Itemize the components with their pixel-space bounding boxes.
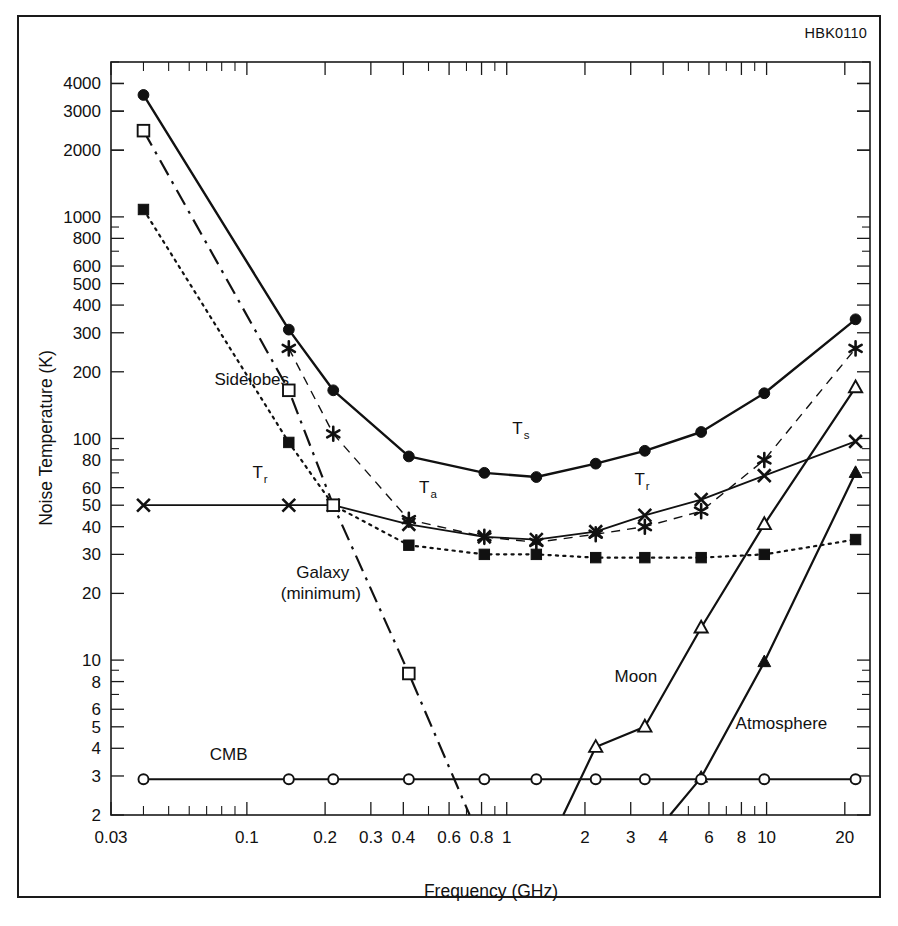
marker-filled-square <box>531 549 541 559</box>
y-tick-label: 80 <box>82 451 101 470</box>
series-galaxy-minimum <box>138 125 470 815</box>
series-ts <box>138 90 861 483</box>
annotation-label: Ts <box>512 419 529 441</box>
y-axis-tick-labels: 4000300020001000800600500400300200100806… <box>63 74 101 825</box>
marker-x-cross <box>849 435 862 448</box>
x-tick-label: 0.03 <box>94 828 127 847</box>
marker-filled-square <box>404 540 414 550</box>
plot-frame <box>111 62 870 815</box>
marker-open-circle <box>138 774 148 784</box>
marker-open-circle <box>591 774 601 784</box>
marker-filled-square <box>591 552 601 562</box>
y-tick-label: 40 <box>82 518 101 537</box>
annotation-subscript: a <box>430 488 437 500</box>
y-tick-label: 3 <box>92 767 101 786</box>
figure-page: HBK0110 0.030.10.20.30.40.60.81234681020… <box>0 0 898 926</box>
x-tick-label: 0.3 <box>359 828 383 847</box>
series-moon <box>563 380 862 815</box>
x-tick-label: 2 <box>580 828 589 847</box>
y-tick-label: 50 <box>82 496 101 515</box>
series-sidelobes <box>283 341 862 549</box>
series-atmosphere <box>670 466 862 815</box>
marker-open-square <box>327 499 339 511</box>
x-tick-label: 0.2 <box>313 828 337 847</box>
y-tick-label: 20 <box>82 584 101 603</box>
annotation-label: CMB <box>210 745 248 764</box>
data-series-group <box>137 90 862 815</box>
y-tick-label: 5 <box>92 718 101 737</box>
marker-open-circle <box>759 774 769 784</box>
series-tr <box>137 435 862 546</box>
annotation-subscript: s <box>524 429 530 441</box>
marker-filled-circle <box>696 427 707 438</box>
y-axis-ticks <box>111 62 870 815</box>
annotation-label: Moon <box>615 667 658 686</box>
y-tick-label: 200 <box>73 363 101 382</box>
x-tick-label: 0.1 <box>235 828 259 847</box>
marker-filled-circle <box>850 314 861 325</box>
series-path <box>143 441 855 539</box>
marker-filled-circle <box>479 467 490 478</box>
marker-filled-triangle <box>849 466 862 478</box>
x-axis-tick-labels: 0.030.10.20.30.40.60.81234681020 <box>94 828 854 847</box>
marker-open-circle <box>284 774 294 784</box>
marker-open-square <box>403 668 415 680</box>
x-tick-label: 10 <box>757 828 776 847</box>
annotation-label: Ta <box>419 478 437 500</box>
annotation-subscript: r <box>646 480 650 492</box>
annotation-label: Atmosphere <box>736 714 828 733</box>
x-tick-label: 8 <box>737 828 746 847</box>
marker-open-circle <box>696 774 706 784</box>
y-tick-label: 400 <box>73 296 101 315</box>
marker-filled-circle <box>639 445 650 456</box>
marker-open-circle <box>640 774 650 784</box>
marker-filled-square <box>640 552 650 562</box>
marker-x-cross <box>758 469 771 482</box>
y-axis-title: Noise Temperature (K) <box>36 350 56 526</box>
marker-open-circle <box>531 774 541 784</box>
marker-asterisk <box>283 341 295 355</box>
marker-filled-circle <box>590 458 601 469</box>
marker-open-circle <box>404 774 414 784</box>
marker-asterisk <box>695 504 707 518</box>
x-axis-ticks <box>111 62 845 815</box>
marker-asterisk <box>639 520 651 534</box>
series-path <box>143 95 855 477</box>
annotation-label: Tr <box>252 463 267 485</box>
y-tick-label: 3000 <box>63 102 101 121</box>
x-tick-label: 0.4 <box>392 828 416 847</box>
x-tick-label: 3 <box>626 828 635 847</box>
y-tick-label: 100 <box>73 430 101 449</box>
marker-open-triangle <box>849 380 862 392</box>
y-tick-label: 30 <box>82 545 101 564</box>
series-path <box>563 387 855 815</box>
marker-filled-square <box>850 534 860 544</box>
marker-filled-circle <box>328 385 339 396</box>
annotation-label: (minimum) <box>281 584 361 603</box>
series-path <box>143 131 469 815</box>
y-tick-label: 8 <box>92 673 101 692</box>
x-tick-label: 4 <box>658 828 667 847</box>
marker-open-circle <box>328 774 338 784</box>
marker-filled-square <box>284 437 294 447</box>
y-tick-label: 300 <box>73 324 101 343</box>
annotation-label: Galaxy <box>296 563 349 582</box>
plot-area-border <box>111 62 870 815</box>
y-tick-label: 6 <box>92 700 101 719</box>
x-tick-label: 0.6 <box>437 828 461 847</box>
y-tick-label: 2000 <box>63 141 101 160</box>
y-tick-label: 1000 <box>63 208 101 227</box>
marker-open-square <box>138 125 150 137</box>
marker-open-circle <box>479 774 489 784</box>
marker-filled-square <box>138 204 148 214</box>
chart-annotations: SidelobesTrTaTsTrGalaxy(minimum)CMBMoonA… <box>210 370 827 764</box>
marker-filled-circle <box>759 388 770 399</box>
annotation-label: Sidelobes <box>214 370 289 389</box>
x-tick-label: 0.8 <box>470 828 494 847</box>
marker-filled-triangle <box>758 655 771 667</box>
x-tick-label: 1 <box>502 828 511 847</box>
x-axis-title: Frequency (GHz) <box>424 881 558 901</box>
marker-open-triangle <box>638 720 651 732</box>
y-tick-label: 800 <box>73 229 101 248</box>
annotation-label: Tr <box>634 470 649 492</box>
